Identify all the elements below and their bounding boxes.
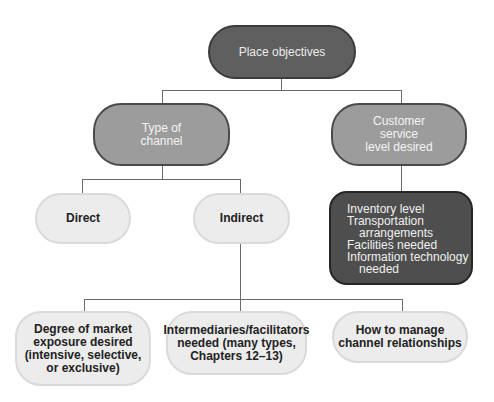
connector-type-down — [162, 165, 163, 179]
node-label: Direct — [66, 212, 100, 225]
node-label: Place objectives — [239, 45, 326, 59]
detail-line: needed — [347, 263, 468, 275]
node-market-exposure: Degree of market exposure desired (inten… — [15, 311, 151, 386]
connector-bottom-horizontal — [84, 299, 403, 300]
service-details-list: Inventory level Transportation arrangeme… — [347, 203, 468, 275]
connector-channel-horizontal — [82, 179, 241, 180]
node-label: Indirect — [220, 212, 263, 225]
node-label: Customer service level desired — [365, 115, 432, 154]
node-customer-service-level: Customer service level desired — [331, 103, 467, 166]
node-label: Degree of market exposure desired (inten… — [25, 323, 142, 375]
connector-to-type-of-channel — [162, 90, 163, 104]
node-label: Type of channel — [140, 122, 182, 148]
connector-indirect-down — [240, 243, 241, 311]
node-label: Intermediaries/facilitators needed (many… — [163, 324, 309, 363]
node-service-details: Inventory level Transportation arrangeme… — [329, 191, 473, 285]
connector-service-down — [401, 165, 402, 192]
connector-level1-horizontal — [162, 90, 402, 91]
node-label: How to manage channel relationships — [338, 324, 461, 350]
node-channel-relationships: How to manage channel relationships — [332, 311, 468, 363]
node-indirect: Indirect — [193, 193, 290, 244]
connector-to-indirect — [240, 179, 241, 194]
node-place-objectives: Place objectives — [208, 25, 356, 79]
node-type-of-channel: Type of channel — [93, 103, 230, 166]
connector-to-direct — [82, 179, 83, 194]
node-intermediaries: Intermediaries/facilitators needed (many… — [166, 311, 307, 375]
node-direct: Direct — [35, 193, 131, 244]
connector-to-customer-service — [401, 90, 402, 104]
